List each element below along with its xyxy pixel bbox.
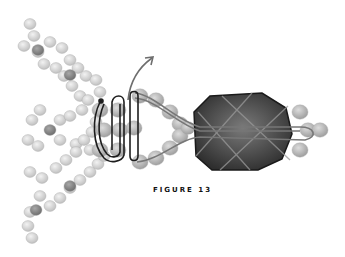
- bead: [18, 41, 30, 52]
- bead: [54, 135, 66, 146]
- bead: [50, 163, 62, 174]
- bead: [24, 19, 36, 30]
- bead: [60, 155, 72, 166]
- dark-bead: [30, 205, 42, 216]
- bead: [74, 175, 86, 186]
- bead: [54, 193, 66, 204]
- dark-bead: [32, 45, 44, 56]
- bead: [22, 135, 34, 146]
- bead: [292, 105, 308, 119]
- bead: [44, 37, 56, 48]
- dark-bead: [44, 125, 56, 136]
- bead: [66, 81, 78, 92]
- bead: [24, 167, 36, 178]
- figure-caption: FIGURE 13: [0, 186, 345, 194]
- bead: [94, 87, 106, 98]
- bead: [292, 143, 308, 157]
- bead: [26, 115, 38, 126]
- bead: [38, 59, 50, 70]
- dark-bead: [64, 70, 76, 81]
- bead: [90, 75, 102, 86]
- bead: [92, 143, 108, 157]
- bead: [64, 111, 76, 122]
- bead: [70, 147, 82, 158]
- bead: [126, 121, 142, 135]
- bead: [36, 173, 48, 184]
- bead: [34, 105, 46, 116]
- bead: [28, 31, 40, 42]
- bead: [82, 95, 94, 106]
- bead: [76, 105, 88, 116]
- bead: [312, 123, 328, 137]
- bead: [44, 201, 56, 212]
- bead: [26, 233, 38, 244]
- molecular-diagram: [0, 0, 345, 257]
- bead: [56, 43, 68, 54]
- bead: [22, 221, 34, 232]
- bead: [32, 141, 44, 152]
